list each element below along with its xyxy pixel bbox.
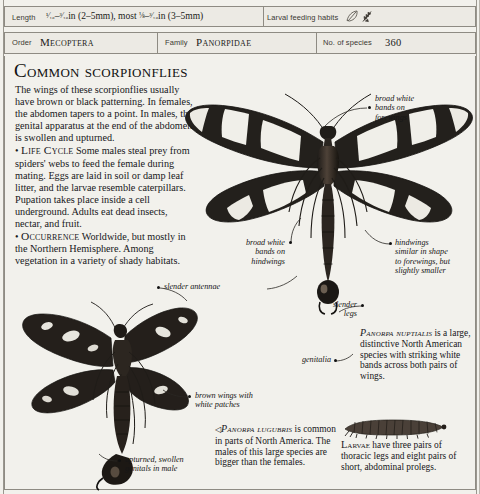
order-label: Order xyxy=(12,38,32,47)
caption-larvae: Larvae have three pairs of thoracic legs… xyxy=(341,440,471,472)
annotation-slender-legs: slender legs xyxy=(297,300,357,319)
leader-hindwing-bands xyxy=(291,218,301,243)
leader-brown-wings xyxy=(163,390,187,397)
caption-nuptialis-species: Panorpa nuptialis xyxy=(360,327,432,338)
header-divider-1 xyxy=(263,7,264,26)
caption-panorpa-nuptialis: Panorpa nuptialis is a large, distinctiv… xyxy=(360,328,478,382)
annotation-brown-wings: brown wings with white patches xyxy=(195,391,305,410)
leader-antennae xyxy=(267,276,297,289)
larval-feeding-label: Larval feeding habits xyxy=(267,13,338,22)
species-count-label: No. of species xyxy=(323,38,372,47)
order-value: Mecoptera xyxy=(40,36,94,48)
leader-forewing-bands xyxy=(325,108,367,126)
header-divider-2 xyxy=(157,33,158,53)
leader-hindwings-similar xyxy=(365,230,390,244)
annotation-broad-white-bands-hindwings: broad white bands on hindwings xyxy=(187,238,285,266)
content-panel: Common scorpionflies The wings of these … xyxy=(4,56,476,490)
species-count-value: 360 xyxy=(385,37,402,48)
annotation-hindwings-similar: hindwings similar in shape to forewings,… xyxy=(395,238,480,276)
caption-panorpa-lugubris: ◁Panorpa lugubris is common in parts of … xyxy=(215,424,337,468)
anno-dot-slender-legs xyxy=(361,304,364,307)
family-label: Family xyxy=(165,38,188,47)
length-value: ¹⁄₁₆–³⁄₁₆in (2–5mm), most ⅛–³⁄₁₆in (3–5m… xyxy=(46,11,203,21)
anno-dot-hindwing-bands xyxy=(289,241,292,244)
field-guide-page: Length ¹⁄₁₆–³⁄₁₆in (2–5mm), most ⅛–³⁄₁₆i… xyxy=(0,0,480,494)
annotation-genitalia: genitalia xyxy=(263,355,331,364)
leader-genitalia xyxy=(335,354,353,361)
anno-dot-genitalia xyxy=(334,359,337,362)
caption-lugubris-species: Panorpa lugubris xyxy=(221,423,292,434)
leader-upturned-genitals xyxy=(99,454,117,461)
anno-dot-antennae xyxy=(157,286,160,289)
feather-icon xyxy=(363,12,371,22)
anno-dot-forewing-bands xyxy=(368,106,371,109)
anno-dot-hindwings-similar xyxy=(389,242,392,245)
caption-larvae-heading: Larvae xyxy=(341,439,370,450)
anno-dot-upturned-genitals xyxy=(118,459,121,462)
family-value: Panorpidae xyxy=(196,36,251,48)
header-divider-3 xyxy=(316,33,317,53)
annotation-slender-antennae: slender antennae xyxy=(164,282,264,291)
larval-feeding-icons xyxy=(345,9,385,23)
anno-dot-brown-wings xyxy=(188,395,191,398)
annotation-broad-white-bands-forewings: broad white bands on forewings xyxy=(375,94,475,122)
leaf-icon xyxy=(347,11,357,21)
length-label: Length xyxy=(12,13,36,22)
